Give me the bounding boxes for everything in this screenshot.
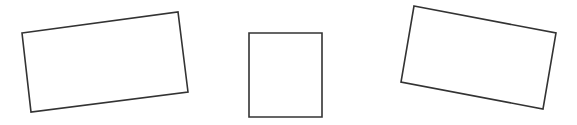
shapes-canvas [0,0,577,125]
shape-svg-surface [0,0,577,125]
shape-center-upright-square[interactable] [249,33,322,117]
